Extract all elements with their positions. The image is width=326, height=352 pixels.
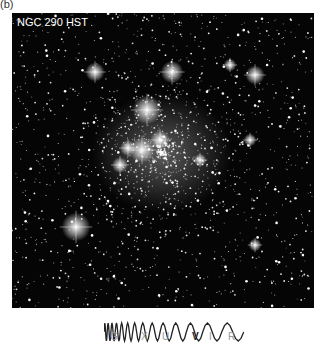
band-i: I <box>209 331 212 342</box>
band-r: R <box>228 331 235 342</box>
band-x: X <box>141 331 148 342</box>
star-field-image: NGC 290 HST <box>12 13 314 308</box>
band-g: G <box>110 331 118 342</box>
band-labels: G X U V I R <box>106 331 246 345</box>
panel-label: (b) <box>0 0 13 10</box>
star-cluster-graphic <box>12 13 314 308</box>
band-v: V <box>192 331 199 342</box>
image-title: NGC 290 HST <box>17 16 88 28</box>
band-u: U <box>162 331 169 342</box>
